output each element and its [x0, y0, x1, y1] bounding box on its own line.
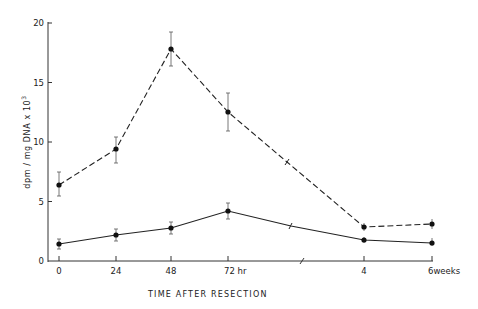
y-tick-0: 0: [39, 256, 44, 266]
y-tick-15: 15: [33, 78, 44, 88]
x-tick-48: 48: [166, 266, 177, 276]
x-axis-title: TIME AFTER RESECTION: [147, 290, 268, 299]
y-tick-20: 20: [33, 18, 44, 28]
x-tick-72hr: 72 hr: [224, 266, 247, 276]
svg-text:dpm / mg DNA x 103: dpm / mg DNA x 103: [20, 95, 32, 188]
y-tick-5: 5: [39, 197, 44, 207]
dashed-series-error-bars: [57, 32, 432, 231]
dashed-series-line: [59, 49, 432, 227]
x-tick-0: 0: [56, 266, 61, 276]
y-axis: [48, 22, 52, 262]
y-tick-10: 10: [33, 137, 44, 147]
solid-series-line: [59, 211, 432, 244]
x-tick-4: 4: [361, 266, 366, 276]
x-tick-6weeks: 6weeks: [428, 266, 461, 276]
solid-series-error-bars: [57, 203, 432, 249]
dashed-series-markers: [56, 46, 434, 229]
chart: 20 15 10 5 0 0 24 48 72 hr 4 6weeks TIME…: [0, 0, 478, 309]
y-axis-title: dpm / mg DNA x 103: [20, 95, 32, 188]
x-axis: [48, 256, 433, 264]
x-tick-24: 24: [111, 266, 122, 276]
